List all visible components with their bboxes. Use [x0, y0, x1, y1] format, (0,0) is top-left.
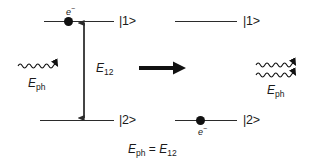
outgoing-photon-subscript: ph [275, 89, 284, 99]
left-lower-level-ket: |2> [119, 114, 136, 127]
energy-gap-subscript: 12 [104, 67, 113, 77]
right-electron-charge-sign: − [203, 125, 207, 132]
right-upper-level-ket: |1> [243, 15, 260, 28]
process-arrow-icon [139, 60, 187, 76]
incoming-photon-subscript: ph [36, 82, 45, 92]
incoming-photon-label: Eph [28, 77, 45, 92]
right-lower-level-ket: |2> [243, 114, 260, 127]
left-electron-dot [64, 17, 73, 26]
stimulated-emission-diagram: e− |1> |2> E12 Eph [0, 0, 315, 164]
energy-gap-label: E12 [96, 62, 113, 77]
outgoing-photon-wave-icon-2 [255, 68, 307, 80]
left-upper-level-ket: |1> [119, 15, 136, 28]
right-electron-dot [196, 116, 205, 125]
left-electron-label: e− [66, 5, 75, 17]
energy-gap-arrow [76, 18, 92, 124]
incoming-photon-wave-icon [17, 59, 69, 71]
equation-right-symbol: E [159, 142, 167, 156]
right-electron-label: e− [198, 125, 207, 137]
outgoing-photon-label: Eph [267, 84, 284, 99]
equation-left-symbol: E [128, 142, 136, 156]
left-electron-charge-sign: − [71, 5, 75, 12]
right-upper-level-line [175, 21, 237, 22]
right-lower-level-line [175, 120, 237, 121]
equation-right-subscript: 12 [167, 148, 176, 158]
energy-conservation-equation: Eph = E12 [128, 143, 177, 158]
